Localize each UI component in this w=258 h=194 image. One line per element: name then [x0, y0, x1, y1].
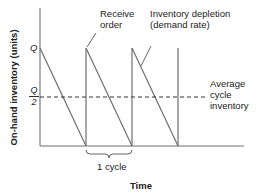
avg-line1: Average: [210, 78, 249, 89]
q-half-denominator: 2: [31, 97, 36, 107]
depletion-line2: (demand rate): [150, 19, 230, 30]
avg-line2: cycle: [210, 89, 249, 100]
inventory-depletion-label: Inventory depletion (demand rate): [150, 8, 230, 30]
receive-order-line1: Receive: [100, 8, 134, 19]
q-half-numerator: Q: [30, 85, 37, 95]
q-tick-label: Q: [30, 42, 37, 53]
depletion-line1: Inventory depletion: [150, 8, 230, 19]
q-half-tick-label: Q 2: [29, 86, 39, 107]
receive-order-pointer: [87, 33, 96, 47]
one-cycle-bracket: [86, 150, 132, 158]
y-axis-label: On-hand inventory (units): [8, 23, 19, 153]
one-cycle-label: 1 cycle: [97, 161, 127, 172]
depletion-pointer: [141, 46, 151, 66]
x-axis-label: Time: [12, 180, 258, 191]
receive-order-line2: order: [100, 19, 134, 30]
avg-line3: inventory: [210, 100, 249, 111]
sawtooth-series: [40, 48, 178, 146]
receive-order-label: Receive order: [100, 8, 134, 30]
average-cycle-inventory-label: Average cycle inventory: [210, 78, 249, 111]
